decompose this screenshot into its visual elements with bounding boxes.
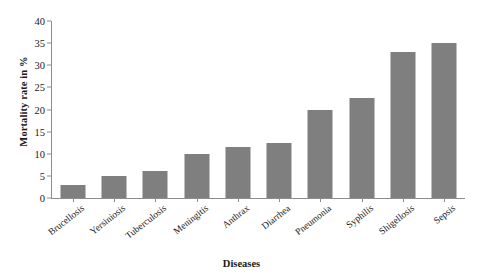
y-axis-tick-mark xyxy=(47,21,51,22)
x-axis-category-label-text: Shigellosis xyxy=(377,203,416,237)
y-axis-tick-mark xyxy=(47,109,51,110)
x-axis-category-label-text: Tuberculosis xyxy=(124,203,169,241)
bar-chart: Mortality rate in % 0510152025303540 Dis… xyxy=(0,0,483,280)
y-axis-tick-mark xyxy=(47,87,51,88)
y-axis-tick-mark xyxy=(47,131,51,132)
x-axis-tick-mark xyxy=(444,198,445,202)
x-axis-tick-mark xyxy=(362,198,363,202)
bar-slot xyxy=(176,21,217,198)
x-axis-tick-mark xyxy=(73,198,74,202)
x-axis-category-label-text: Anthrax xyxy=(220,203,251,230)
bar xyxy=(432,43,457,198)
y-axis-tick-mark xyxy=(47,175,51,176)
bar xyxy=(60,185,85,198)
bar-slot xyxy=(341,21,382,198)
bars-group xyxy=(52,21,465,198)
bar-slot xyxy=(135,21,176,198)
x-axis-tick-mark xyxy=(279,198,280,202)
bar-slot xyxy=(382,21,423,198)
x-axis-category-label-text: Pneumonia xyxy=(294,203,334,237)
y-axis-tick-mark xyxy=(47,43,51,44)
x-axis-tick-mark xyxy=(320,198,321,202)
x-axis-category-label-text: Syphilis xyxy=(344,203,375,230)
y-axis-tick-mark xyxy=(47,153,51,154)
x-axis-category-label-text: Meningitis xyxy=(171,203,210,236)
y-axis-tick-mark xyxy=(47,65,51,66)
x-axis-tick-mark xyxy=(238,198,239,202)
bar-slot xyxy=(52,21,93,198)
x-axis-tick-mark xyxy=(197,198,198,202)
y-axis-title: Mortality rate in % xyxy=(18,27,29,177)
bar-slot xyxy=(259,21,300,198)
bar-slot xyxy=(300,21,341,198)
x-axis-tick-mark xyxy=(403,198,404,202)
bar-slot xyxy=(217,21,258,198)
x-axis-tick-mark xyxy=(114,198,115,202)
bar-slot xyxy=(424,21,465,198)
x-axis-category-label-text: Brucellosis xyxy=(46,203,86,237)
x-axis-title: Diseases xyxy=(0,258,483,269)
y-axis-tick-mark xyxy=(47,198,51,199)
x-axis-category-label-text: Sepsis xyxy=(432,203,457,226)
bar-slot xyxy=(93,21,134,198)
bar xyxy=(391,52,416,198)
plot-area: 0510152025303540 xyxy=(51,21,465,198)
x-axis-category-label-text: Yersiniosis xyxy=(88,203,127,237)
x-axis-tick-mark xyxy=(155,198,156,202)
x-axis-category-label-text: Diarrhea xyxy=(260,203,292,231)
